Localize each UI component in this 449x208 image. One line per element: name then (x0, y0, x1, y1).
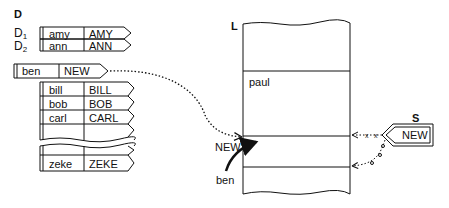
row-value-ben: NEW (64, 65, 90, 77)
list-l-box (243, 20, 350, 195)
row-value-amy: AMY (89, 28, 113, 40)
list-cell-paul: paul (249, 76, 270, 88)
row-key-ben: ben (22, 65, 40, 77)
row-value-bob: BOB (89, 98, 112, 110)
svg-text:x: x (365, 132, 369, 139)
row-value-bill: BILL (89, 84, 112, 96)
svg-text:x: x (374, 132, 378, 139)
row-key-bill: bill (49, 84, 62, 96)
pointer-s-title: S (412, 112, 419, 124)
list-new-label: NEW (215, 141, 241, 153)
row-value-carl: CARL (89, 112, 118, 124)
list-ben-label: ben (216, 174, 234, 186)
table-d-title: D (14, 8, 22, 20)
row-key-bob: bob (49, 98, 67, 110)
pointer-s-label: NEW (402, 129, 428, 141)
marker-d2: D2 (14, 40, 27, 56)
row-key-amy: amy (49, 28, 70, 40)
s-pointers: x x (352, 132, 385, 166)
link-ben-to-list (110, 71, 242, 137)
row-key-carl: carl (49, 112, 67, 124)
list-l-title: L (231, 20, 238, 32)
row-value-zeke: ZEKE (89, 158, 118, 170)
row-key-zeke: zeke (49, 158, 72, 170)
row-value-ann: ANN (89, 40, 112, 52)
row-key-ann: ann (49, 40, 67, 52)
